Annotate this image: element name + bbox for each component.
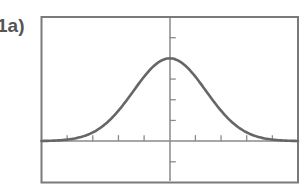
graph-window (0, 0, 305, 186)
